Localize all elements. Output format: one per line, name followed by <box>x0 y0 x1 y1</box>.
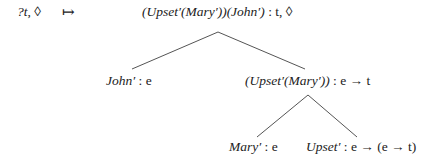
edge-root-vp <box>218 32 305 69</box>
input-node-var: ?t <box>17 4 28 19</box>
node-upset-formula: Upset′ <box>306 139 340 154</box>
node-upset: Upset′ : e → (e → t) <box>306 139 416 155</box>
node-john: John′ : e <box>106 73 152 89</box>
edge-root-john <box>132 32 218 69</box>
node-mary: Mary′ : e <box>229 139 278 155</box>
root-type: : t, ◊ <box>265 4 293 19</box>
node-vp: (Upset′(Mary′)) : e → t <box>245 73 370 89</box>
edge-vp-upset <box>308 95 357 137</box>
node-mary-formula: Mary′ <box>229 139 261 154</box>
node-vp-type: : e → t <box>330 73 371 88</box>
node-upset-type: : e → (e → t) <box>340 139 416 154</box>
maps-to-arrow: ↦ <box>62 4 75 20</box>
root-node: (Upset′(Mary′))(John′) : t, ◊ <box>142 4 293 20</box>
node-john-formula: John′ <box>106 73 135 88</box>
node-john-type: : e <box>135 73 152 88</box>
node-mary-type: : e <box>261 139 278 154</box>
diamond-icon: ◊ <box>34 4 41 19</box>
root-formula: (Upset′(Mary′))(John′) <box>142 4 265 19</box>
edge-vp-mary <box>257 95 308 137</box>
node-vp-formula: (Upset′(Mary′)) <box>245 73 330 88</box>
input-node: ?t, ◊ <box>17 4 41 20</box>
